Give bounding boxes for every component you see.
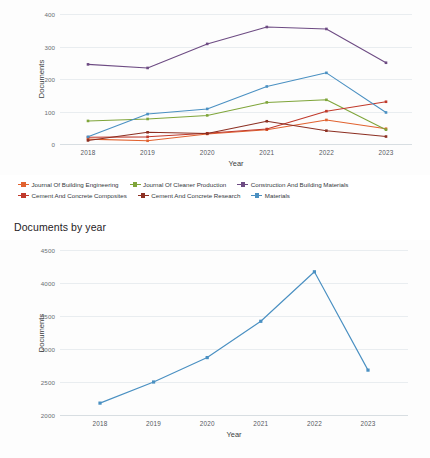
series-marker[interactable]	[313, 270, 316, 273]
series-line	[88, 100, 386, 130]
x-axis-tick-label: 2021	[253, 420, 268, 427]
chart-plot-area: 0100200300400201820192020202120222023 Do…	[60, 14, 412, 144]
y-axis-tick-label: 300	[44, 43, 60, 50]
legend-item-label: Cement And Concrete Research	[151, 191, 240, 200]
y-axis-tick-label: 4500	[41, 247, 60, 254]
series-marker[interactable]	[87, 139, 90, 142]
series-marker[interactable]	[266, 85, 269, 88]
series-marker[interactable]	[206, 43, 209, 46]
documents-per-source-chart: 0100200300400201820192020202120222023 Do…	[0, 0, 430, 175]
legend-item-label: Materials	[265, 191, 290, 200]
legend-marker-icon	[138, 192, 149, 199]
series-marker[interactable]	[325, 72, 328, 75]
series-marker[interactable]	[206, 114, 209, 117]
x-axis-tick-label: 2018	[92, 420, 107, 427]
chart-plot-area: 2000250030003500400045002018201920202021…	[60, 250, 408, 415]
chart-legend[interactable]: Journal Of Building EngineeringJournal O…	[18, 180, 418, 200]
page-title: Documents by year	[14, 221, 106, 233]
series-marker[interactable]	[266, 128, 269, 131]
x-axis-tick-label: 2022	[319, 149, 334, 156]
series-marker[interactable]	[366, 369, 369, 372]
x-axis-title: Year	[227, 430, 242, 439]
series-marker[interactable]	[385, 111, 388, 114]
y-axis-tick-label: 400	[44, 11, 60, 18]
series-marker[interactable]	[266, 26, 269, 29]
series-marker[interactable]	[87, 63, 90, 66]
series-marker[interactable]	[385, 61, 388, 64]
legend-item[interactable]: Cement And Concrete Research	[138, 191, 241, 200]
y-axis-tick-label: 200	[44, 76, 60, 83]
x-axis-tick-label: 2018	[80, 149, 95, 156]
x-axis-tick-label: 2021	[259, 149, 274, 156]
series-marker[interactable]	[325, 28, 328, 31]
series-marker[interactable]	[259, 320, 262, 323]
legend-item[interactable]: Materials	[251, 191, 290, 200]
series-marker[interactable]	[146, 131, 149, 134]
x-axis-tick-label: 2019	[146, 420, 161, 427]
y-axis-title: Documents	[37, 313, 46, 351]
legend-marker-icon	[237, 181, 248, 188]
legend-item[interactable]: Journal Of Cleaner Production	[130, 180, 227, 189]
series-marker[interactable]	[152, 380, 155, 383]
y-axis-title: Documents	[37, 60, 46, 98]
grid-line	[60, 415, 408, 416]
series-layer	[60, 250, 408, 415]
series-marker[interactable]	[385, 135, 388, 138]
x-axis-tick-label: 2023	[360, 420, 375, 427]
series-marker[interactable]	[146, 113, 149, 116]
x-axis-tick-label: 2020	[200, 420, 215, 427]
x-axis-tick-label: 2019	[140, 149, 155, 156]
y-axis-tick-label: 2500	[41, 379, 60, 386]
series-line	[100, 272, 368, 403]
series-marker[interactable]	[385, 128, 388, 131]
series-marker[interactable]	[266, 120, 269, 123]
documents-charts-page: 0100200300400201820192020202120222023 Do…	[0, 0, 430, 458]
y-axis-tick-label: 0	[51, 141, 60, 148]
documents-by-year-chart: 2000250030003500400045002018201920202021…	[0, 240, 430, 458]
series-marker[interactable]	[146, 67, 149, 70]
series-marker[interactable]	[206, 108, 209, 111]
series-line	[88, 27, 386, 68]
y-axis-tick-label: 100	[44, 108, 60, 115]
series-marker[interactable]	[146, 118, 149, 121]
legend-marker-icon	[18, 181, 29, 188]
series-marker[interactable]	[87, 120, 90, 123]
legend-item[interactable]: Construction And Building Materials	[237, 180, 348, 189]
series-marker[interactable]	[325, 119, 328, 122]
legend-marker-icon	[251, 192, 262, 199]
series-layer	[60, 14, 412, 144]
y-axis-tick-label: 4000	[41, 280, 60, 287]
x-axis-tick-label: 2022	[307, 420, 322, 427]
x-axis-tick-label: 2023	[378, 149, 393, 156]
legend-item-label: Journal Of Building Engineering	[32, 180, 119, 189]
legend-marker-icon	[18, 192, 29, 199]
series-marker[interactable]	[325, 99, 328, 102]
series-marker[interactable]	[87, 136, 90, 139]
series-marker[interactable]	[266, 101, 269, 104]
series-line	[88, 120, 386, 141]
series-marker[interactable]	[146, 139, 149, 142]
series-marker[interactable]	[206, 132, 209, 135]
x-axis-title: Year	[229, 159, 244, 168]
series-marker[interactable]	[325, 110, 328, 113]
series-marker[interactable]	[206, 356, 209, 359]
grid-line	[60, 144, 412, 145]
legend-item-label: Cement And Concrete Composites	[32, 191, 127, 200]
x-axis-tick-label: 2020	[200, 149, 215, 156]
legend-marker-icon	[130, 181, 141, 188]
series-marker[interactable]	[98, 402, 101, 405]
legend-item[interactable]: Journal Of Building Engineering	[18, 180, 119, 189]
series-marker[interactable]	[325, 129, 328, 132]
series-marker[interactable]	[146, 136, 149, 139]
legend-item[interactable]: Cement And Concrete Composites	[18, 191, 127, 200]
legend-item-label: Construction And Building Materials	[251, 180, 349, 189]
y-axis-tick-label: 2000	[41, 412, 60, 419]
series-marker[interactable]	[385, 100, 388, 103]
legend-item-label: Journal Of Cleaner Production	[143, 180, 226, 189]
